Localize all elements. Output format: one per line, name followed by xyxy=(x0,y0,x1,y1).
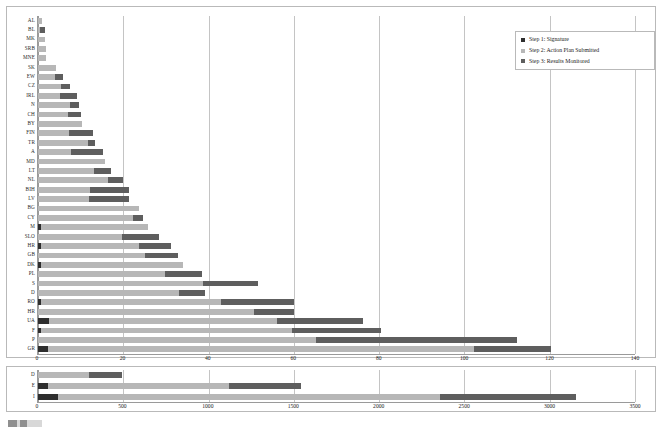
legend-item-label: Step 1: Signature xyxy=(529,37,569,43)
bar-row: IRL xyxy=(38,93,635,99)
bar-row-label: MNE xyxy=(23,56,35,61)
bar-segment-step2 xyxy=(38,102,70,108)
bar-segment-step3 xyxy=(179,290,205,296)
bar-row: P xyxy=(38,337,635,343)
overflow-chart-panel: DEI 0500100015002000250030003500 xyxy=(6,366,656,412)
legend-item-label: Step 3: Results Monitored xyxy=(529,59,590,65)
bar-row-label: IRL xyxy=(26,93,35,98)
bar-row-label: MK xyxy=(26,37,35,42)
footer-mark xyxy=(8,420,42,427)
legend-item-label: Step 2: Action Plan Submitted xyxy=(529,48,599,54)
x-tick-label-60: 60 xyxy=(290,356,296,362)
bar-segment-step3 xyxy=(145,253,178,259)
square-swatch-icon xyxy=(521,49,525,53)
bar-row: LT xyxy=(38,168,635,174)
bar-segment-step1 xyxy=(38,394,58,400)
bar-row-label: I xyxy=(33,394,35,399)
bar-segment-step3 xyxy=(68,112,81,118)
legend-item-3[interactable]: Step 3: Results Monitored xyxy=(521,59,648,65)
bar-row-label: CY xyxy=(27,215,35,220)
gridline-3500 xyxy=(635,370,636,402)
bar-segment-step2 xyxy=(41,299,221,305)
x-tick-label-20: 20 xyxy=(120,356,126,362)
x-tick-label-80: 80 xyxy=(376,356,382,362)
footer-mark-segment-b xyxy=(20,420,27,427)
bar-segment-step2 xyxy=(38,159,105,165)
bar-row-label: PL xyxy=(29,272,35,277)
bar-segment-step3 xyxy=(316,337,517,343)
bar-segment-step1 xyxy=(38,383,48,389)
bar-segment-step1 xyxy=(38,318,49,324)
bar-segment-step2 xyxy=(38,93,60,99)
bar-segment-step2 xyxy=(41,328,292,334)
bar-segment-step3 xyxy=(61,84,69,90)
bar-row-label: MD xyxy=(26,159,35,164)
bar-row: GR xyxy=(38,346,635,352)
x-tick-label-3000: 3000 xyxy=(544,404,555,410)
bar-row-label: D xyxy=(31,290,35,295)
bar-row: M xyxy=(38,224,635,230)
bar-segment-step2 xyxy=(38,112,68,118)
bar-segment-step3 xyxy=(69,130,93,136)
bar-row: I xyxy=(38,394,635,400)
bar-segment-step2 xyxy=(38,46,46,52)
bar-row: N xyxy=(38,102,635,108)
bar-segment-step2 xyxy=(38,309,254,315)
bar-segment-step2 xyxy=(38,271,165,277)
figure-container: ALBLMKSRBMNESKEWCZIRLNCHBYFINTRAMDLTNLBI… xyxy=(0,0,662,430)
bar-segment-step2 xyxy=(38,121,82,127)
bar-row: FIN xyxy=(38,130,635,136)
bar-segment-step2 xyxy=(38,84,61,90)
bar-row-label: LV xyxy=(28,196,35,201)
bar-row: GB xyxy=(38,253,635,259)
bar-segment-step2 xyxy=(38,187,90,193)
main-chart-panel: ALBLMKSRBMNESKEWCZIRLNCHBYFINTRAMDLTNLBI… xyxy=(6,6,656,358)
bar-row-label: NL xyxy=(28,178,35,183)
bar-row-label: LT xyxy=(29,168,35,173)
overflow-plot-area: DEI xyxy=(37,370,635,403)
bar-row-label: EW xyxy=(27,74,35,79)
bar-segment-step2 xyxy=(38,281,203,287)
bar-row-label: CH xyxy=(27,112,35,117)
bar-segment-step3 xyxy=(89,372,121,378)
legend-item-2[interactable]: Step 2: Action Plan Submitted xyxy=(521,48,648,54)
bar-row-label: SRB xyxy=(25,46,35,51)
bar-segment-step2 xyxy=(38,337,316,343)
bar-segment-step3 xyxy=(122,234,159,240)
bar-row-label: SLO xyxy=(25,234,35,239)
square-swatch-icon xyxy=(521,38,525,42)
bar-segment-step3 xyxy=(133,215,143,221)
bar-segment-step3 xyxy=(277,318,362,324)
bar-row: D xyxy=(38,290,635,296)
bar-row: RO xyxy=(38,299,635,305)
bar-row: CH xyxy=(38,112,635,118)
bar-segment-step3 xyxy=(440,394,576,400)
bar-segment-step3 xyxy=(254,309,295,315)
bar-segment-step2 xyxy=(38,215,133,221)
bar-segment-step3 xyxy=(40,27,45,33)
bar-segment-step2 xyxy=(38,168,94,174)
bar-segment-step2 xyxy=(38,253,145,259)
square-swatch-icon xyxy=(521,59,525,63)
bar-segment-step3 xyxy=(165,271,203,277)
bar-row-label: BL xyxy=(28,27,35,32)
x-tick-label-1500: 1500 xyxy=(288,404,299,410)
bar-row: CY xyxy=(38,215,635,221)
bar-row: UA xyxy=(38,318,635,324)
overflow-bar-rows: DEI xyxy=(38,370,635,402)
x-tick-label-2500: 2500 xyxy=(459,404,470,410)
bar-row-label: GB xyxy=(27,253,35,258)
legend-item-1[interactable]: Step 1: Signature xyxy=(521,37,648,43)
bar-segment-step2 xyxy=(48,346,474,352)
bar-segment-step2 xyxy=(49,318,278,324)
bar-row: AL xyxy=(38,18,635,24)
bar-segment-step3 xyxy=(139,243,170,249)
bar-segment-step3 xyxy=(55,74,63,80)
bar-segment-step2 xyxy=(48,383,229,389)
bar-row: BY xyxy=(38,121,635,127)
bar-row-label: FIN xyxy=(26,131,35,136)
bar-row-label: P xyxy=(32,337,35,342)
bar-row-label: F xyxy=(32,328,35,333)
bar-segment-step2 xyxy=(41,262,183,268)
x-tick-label-0: 0 xyxy=(36,356,39,362)
